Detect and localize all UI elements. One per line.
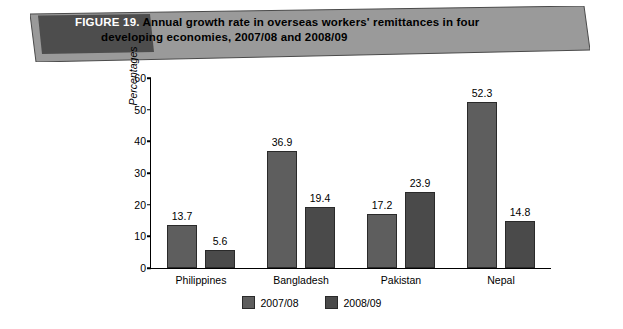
chart-legend: 2007/082008/09 [0,296,623,309]
legend-item: 2007/08 [242,296,299,309]
bar-value-label: 52.3 [459,87,505,99]
legend-label: 2007/08 [261,297,299,309]
legend-swatch [242,296,255,309]
bar [205,250,235,268]
bar [305,207,335,268]
bar-chart: Percentages 010203040506013.75.636.919.4… [100,70,560,270]
legend-label: 2008/09 [344,297,382,309]
bar-value-label: 14.8 [497,206,543,218]
x-axis-tick-label: Nepal [441,274,561,286]
bar [405,192,435,268]
bar-value-label: 13.7 [159,210,205,222]
bar-value-label: 19.4 [297,192,343,204]
bar-value-label: 23.9 [397,177,443,189]
figure-title-block: FIGURE 19. Annual growth rate in oversea… [75,15,555,45]
bar-value-label: 5.6 [197,235,243,247]
bar-value-label: 36.9 [259,136,305,148]
bar [167,225,197,268]
figure-container: FIGURE 19. Annual growth rate in oversea… [0,0,623,329]
figure-title-line-1: Annual growth rate in overseas workers' … [143,16,480,28]
bar-value-label: 17.2 [359,199,405,211]
legend-item: 2008/09 [325,296,382,309]
bar-series-container: 13.75.636.919.417.223.952.314.8 [151,78,551,268]
bar [505,221,535,268]
bar [467,102,497,268]
legend-swatch [325,296,338,309]
bar [267,151,297,268]
bar [367,214,397,268]
figure-banner: FIGURE 19. Annual growth rate in oversea… [30,6,590,62]
figure-title-line-2: developing economies, 2007/08 and 2008/0… [101,30,555,45]
plot-area: Percentages 010203040506013.75.636.919.4… [150,78,551,269]
